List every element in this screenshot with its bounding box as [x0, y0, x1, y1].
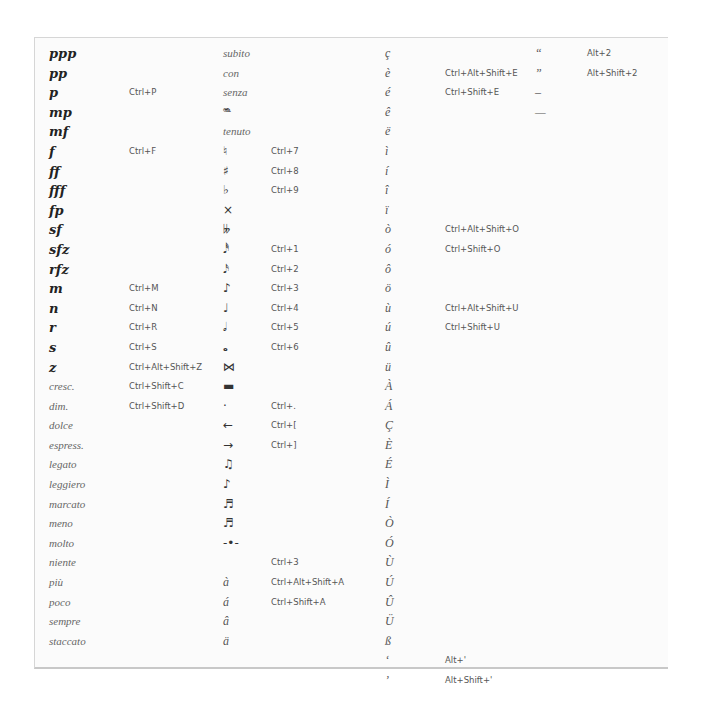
symbol-label: rfz: [49, 260, 69, 280]
symbol-label: p: [49, 83, 58, 103]
symbol-label: poco: [49, 593, 70, 613]
table-row: ö: [385, 279, 545, 299]
table-row: ♩Ctrl+4: [223, 299, 393, 319]
shortcut-label: Ctrl+7: [271, 142, 299, 162]
shortcut-label: Ctrl+5: [271, 318, 299, 338]
table-row: ▬: [223, 377, 393, 397]
symbol-label: á: [223, 593, 229, 613]
symbol-label: ê: [385, 103, 390, 123]
whole-note-icon: 𝅝: [223, 338, 228, 358]
symbol-label: è: [385, 64, 390, 84]
table-row: Ctrl+3: [223, 553, 393, 573]
symbol-label: sempre: [49, 612, 80, 632]
symbol-label: “: [535, 44, 542, 64]
shortcut-label: Ctrl+Alt+Shift+O: [445, 220, 519, 240]
table-row: sfz: [49, 240, 229, 260]
table-row: →Ctrl+]: [223, 436, 393, 456]
table-row: subito: [223, 44, 393, 64]
table-row: È: [385, 436, 545, 456]
table-row: più: [49, 573, 229, 593]
sharp-icon: ♯: [223, 162, 229, 182]
shortcut-label: Ctrl+P: [129, 83, 156, 103]
shortcut-label: Ctrl+Alt+Shift+E: [445, 64, 518, 84]
shortcut-label: Ctrl+Shift+A: [271, 593, 326, 613]
table-row: dolce: [49, 416, 229, 436]
symbol-label: niente: [49, 553, 76, 573]
table-row: ←Ctrl+[: [223, 416, 393, 436]
table-row: ff: [49, 162, 229, 182]
table-row: ß: [385, 632, 545, 652]
table-row: fCtrl+F: [49, 142, 229, 162]
shortcut-label: Ctrl+3: [271, 553, 299, 573]
arrow-right-icon: →: [223, 436, 233, 456]
table-row: rCtrl+R: [49, 318, 229, 338]
symbol-label: s: [49, 338, 56, 358]
table-row: ”Alt+Shift+2: [535, 64, 665, 84]
shortcut-label: Ctrl+R: [129, 318, 157, 338]
symbol-label: staccato: [49, 632, 86, 652]
table-row: senza: [223, 83, 393, 103]
column-punctuation: “Alt+2”Alt+Shift+2–—: [535, 44, 665, 122]
table-row: mf: [49, 122, 229, 142]
symbol-label: legato: [49, 455, 77, 475]
table-row: con: [223, 64, 393, 84]
table-row: éCtrl+Shift+E: [385, 83, 545, 103]
symbol-label: sfz: [49, 240, 69, 260]
symbol-label: Û: [385, 593, 394, 613]
table-row: ä: [223, 632, 393, 652]
symbol-label: subito: [223, 44, 250, 64]
symbol-label: ‘: [385, 651, 389, 671]
table-row: É: [385, 455, 545, 475]
shortcut-label: Alt+2: [587, 44, 611, 64]
symbol-label: ü: [385, 358, 391, 378]
symbol-label: Ú: [385, 573, 394, 593]
eighth-note-icon: ♪: [223, 279, 231, 299]
table-row: ppp: [49, 44, 229, 64]
symbol-label: r: [49, 318, 56, 338]
table-row: Ó: [385, 534, 545, 554]
table-row: -•-: [223, 534, 393, 554]
shortcut-label: Ctrl+9: [271, 181, 299, 201]
symbol-label: ö: [385, 279, 391, 299]
symbol-label: n: [49, 299, 58, 319]
table-row: î: [385, 181, 545, 201]
table-row: Á: [385, 397, 545, 417]
shortcut-label: Ctrl+Shift+D: [129, 397, 184, 417]
shortcut-label: Ctrl+]: [271, 436, 297, 456]
shortcut-label: Ctrl+M: [129, 279, 159, 299]
table-row: “Alt+2: [535, 44, 665, 64]
shortcut-label: Ctrl+8: [271, 162, 299, 182]
table-row: Ú: [385, 573, 545, 593]
table-row: 𝅘𝅥𝅯Ctrl+2: [223, 260, 393, 280]
table-row: Û: [385, 593, 545, 613]
table-row: Ò: [385, 514, 545, 534]
shortcut-label: Ctrl+.: [271, 397, 296, 417]
table-row: meno: [49, 514, 229, 534]
table-row: mCtrl+M: [49, 279, 229, 299]
table-row: úCtrl+Shift+U: [385, 318, 545, 338]
symbol-label: Ó: [385, 534, 394, 554]
table-row: ë: [385, 122, 545, 142]
table-row: ì: [385, 142, 545, 162]
symbol-label: ë: [385, 122, 390, 142]
table-row: sf: [49, 220, 229, 240]
table-row: 𝅗𝅥Ctrl+5: [223, 318, 393, 338]
symbol-label: ’: [385, 671, 389, 691]
symbol-label: â: [223, 612, 229, 632]
symbol-label: Í: [385, 495, 389, 515]
table-row: Ù: [385, 553, 545, 573]
table-row: í: [385, 162, 545, 182]
table-row: â: [223, 612, 393, 632]
symbol-label: ù: [385, 299, 391, 319]
shortcut-label: Ctrl+Shift+E: [445, 83, 499, 103]
symbol-label: ç: [385, 44, 390, 64]
symbol-label: ppp: [49, 44, 76, 64]
symbol-label: fp: [49, 201, 64, 221]
table-row: tenuto: [223, 122, 393, 142]
symbol-label: marcato: [49, 495, 85, 515]
table-row: ü: [385, 358, 545, 378]
table-row: 𝅘𝅥𝅰Ctrl+1: [223, 240, 393, 260]
column-dynamics-and-terms: ppppppCtrl+PmpmffCtrl+FffffffpsfsfzrfzmC…: [49, 44, 229, 651]
pedal-icon: 𝆮: [223, 103, 231, 123]
symbol-label: Á: [385, 397, 392, 417]
